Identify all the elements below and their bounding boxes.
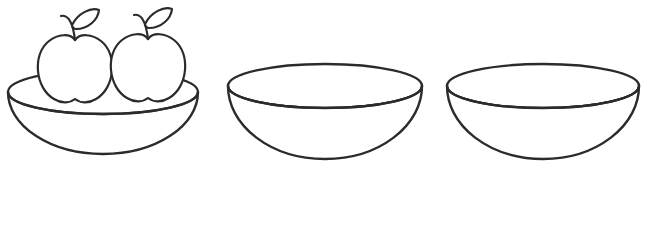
apple-left-body (38, 35, 112, 102)
bowls-line-drawing (0, 0, 649, 238)
apple-right-body (111, 34, 185, 101)
illustration-canvas: Line drawing of three bowls; the left bo… (0, 0, 649, 238)
